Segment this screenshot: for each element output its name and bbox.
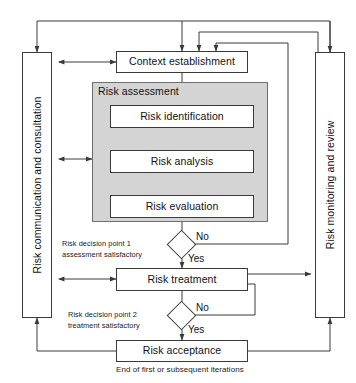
decision-point-1-note-line2: assessment satisfactory xyxy=(62,250,142,259)
panel-risk-monitoring-and-review[interactable]: Risk monitoring and review xyxy=(315,52,345,318)
node-risk-evaluation[interactable]: Risk evaluation xyxy=(110,195,254,218)
decision-point-1-no-label: No xyxy=(196,231,209,242)
panel-risk-communication-and-consultation[interactable]: Risk communication and consultation xyxy=(22,52,52,318)
caption-end-of-iterations: End of first or subsequent iterations xyxy=(116,365,244,374)
decision-point-2-no-label: No xyxy=(196,302,209,313)
group-risk-assessment-label: Risk assessment xyxy=(98,85,179,97)
conn-acceptance-to-monitoring xyxy=(248,318,330,351)
panel-left-label: Risk communication and consultation xyxy=(31,97,43,274)
node-risk-acceptance[interactable]: Risk acceptance xyxy=(116,340,248,362)
node-risk-identification[interactable]: Risk identification xyxy=(110,105,254,128)
decision-point-2-note-line2: treatment satisfactory xyxy=(68,321,140,330)
decision-point-2-yes-label: Yes xyxy=(188,324,204,335)
node-context-establishment[interactable]: Context establishment xyxy=(116,51,248,73)
decision-point-1-yes-label: Yes xyxy=(188,253,204,264)
node-risk-analysis[interactable]: Risk analysis xyxy=(110,150,254,173)
decision-point-2-note-line1: Risk decision point 2 xyxy=(68,310,137,319)
node-risk-treatment[interactable]: Risk treatment xyxy=(116,268,248,291)
panel-right-label: Risk monitoring and review xyxy=(324,121,336,250)
risk-management-process-diagram: Risk communication and consultation Risk… xyxy=(0,0,356,383)
decision-point-1-note-line1: Risk decision point 1 xyxy=(62,239,131,248)
